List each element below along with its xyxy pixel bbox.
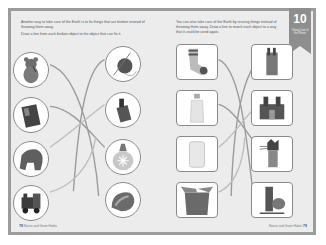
- tape-icon: [106, 183, 140, 217]
- yarn-and-needle[interactable]: [105, 46, 141, 82]
- chapter-title: Taking Care of the Planet: [290, 29, 310, 35]
- cardboard-box-icon: [177, 183, 217, 217]
- instruction-text: Another way to take care of the Earth is…: [21, 20, 149, 30]
- glue-icon: [106, 93, 140, 127]
- page-number: 78: [19, 224, 23, 228]
- old-sock[interactable]: [176, 44, 218, 80]
- repair-tape[interactable]: [105, 182, 141, 218]
- plastic-bottle[interactable]: [176, 90, 218, 126]
- book-icon: [14, 98, 48, 132]
- sock-puppet-cat[interactable]: [251, 136, 293, 172]
- broken-elephant-toy[interactable]: [13, 141, 49, 177]
- right-instructions: You can also take care of the Earth by r…: [176, 20, 281, 37]
- plastic-bottle-icon: [177, 91, 217, 125]
- bottle-hen-craft[interactable]: [251, 182, 293, 218]
- cardboard-box[interactable]: [176, 182, 218, 218]
- castle-icon: [252, 91, 292, 125]
- sock-puppet-icon: [252, 137, 292, 171]
- right-page: You can also take care of the Earth by r…: [163, 11, 313, 232]
- glue-bottle-icon: [106, 140, 140, 174]
- workbook-spread: Another way to take care of the Earth is…: [8, 8, 316, 235]
- broken-book[interactable]: [13, 97, 49, 133]
- yarn-needle-icon: [106, 47, 140, 81]
- right-footer: Nature and Green Habits 79: [269, 224, 307, 228]
- cardboard-castle[interactable]: [251, 90, 293, 126]
- instruction-text: Draw a line from each broken object to t…: [21, 32, 149, 37]
- page-number: 79: [303, 224, 307, 228]
- pencil-holder[interactable]: [251, 44, 293, 80]
- hen-craft-icon: [252, 183, 292, 217]
- left-page: Another way to take care of the Earth is…: [11, 11, 163, 232]
- left-footer: 78 Nature and Green Habits: [19, 224, 57, 228]
- instruction-text: You can also take care of the Earth by r…: [176, 20, 281, 36]
- broken-toy-train[interactable]: [13, 185, 49, 221]
- glue-bottle[interactable]: [105, 139, 141, 175]
- toy-train-icon: [14, 186, 48, 220]
- teddy-bear-icon: [14, 53, 48, 87]
- chapter-number: 10: [289, 12, 311, 26]
- footer-text: Nature and Green Habits: [269, 224, 302, 228]
- broken-teddy-bear[interactable]: [13, 52, 49, 88]
- left-instructions: Another way to take care of the Earth is…: [21, 20, 149, 39]
- elephant-toy-icon: [14, 142, 48, 176]
- footer-text: Nature and Green Habits: [24, 224, 57, 228]
- plastic-container-icon: [177, 137, 217, 171]
- pencil-holder-icon: [252, 45, 292, 79]
- plastic-container[interactable]: [176, 136, 218, 172]
- sock-icon: [177, 45, 217, 79]
- glue-stick[interactable]: [105, 92, 141, 128]
